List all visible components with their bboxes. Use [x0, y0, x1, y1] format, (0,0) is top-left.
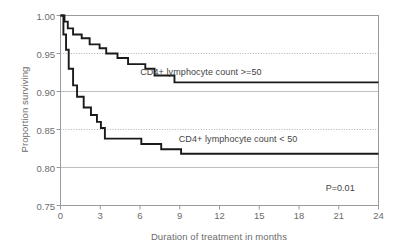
- x-tick-label: 6: [125, 210, 155, 221]
- x-tick-label: 12: [205, 210, 235, 221]
- x-tick-label: 24: [364, 210, 394, 221]
- p-value-annotation: P=0.01: [326, 183, 355, 193]
- x-tick-label: 21: [324, 210, 354, 221]
- x-tick-label: 9: [165, 210, 195, 221]
- series-label-high-cd4: CD4+ lymphocyte count >=50: [140, 67, 261, 77]
- x-tick-label: 18: [284, 210, 314, 221]
- x-tick-label: 3: [85, 210, 115, 221]
- x-tick-label: 15: [244, 210, 274, 221]
- chart-figure: Proportion surviving Duration of treatme…: [0, 0, 395, 249]
- series-label-low-cd4: CD4+ lymphocyte count < 50: [179, 134, 298, 144]
- x-tick-label: 0: [46, 210, 76, 221]
- x-axis-tick-labels: 03691215182124: [0, 0, 395, 249]
